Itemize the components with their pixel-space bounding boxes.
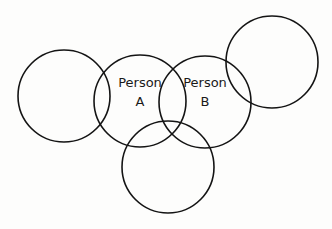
person-a-label-line2: A: [136, 94, 145, 109]
person-b-label-line2: B: [201, 94, 210, 109]
circle-bottom: [122, 121, 214, 213]
circle-left: [18, 50, 110, 142]
person-a-label-line1: Person: [118, 75, 162, 90]
circle-top-right: [226, 16, 318, 108]
venn-network-diagram: Person A Person B: [0, 0, 332, 229]
person-b-label-line1: Person: [183, 75, 227, 90]
